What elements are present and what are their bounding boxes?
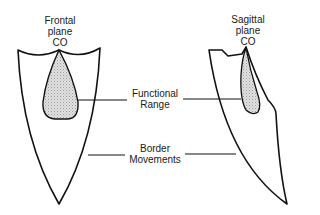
sagittal-title-line3: CO: [225, 36, 271, 47]
functional-line2: Range: [127, 99, 183, 110]
frontal-functional-range: [43, 50, 78, 119]
border-line1: Border: [125, 143, 185, 154]
border-line2: Movements: [125, 154, 185, 165]
frontal-plane-label: Frontal plane CO: [38, 15, 82, 48]
functional-line1: Functional: [127, 88, 183, 99]
frontal-title-line3: CO: [38, 37, 82, 48]
frontal-title-line2: plane: [38, 26, 82, 37]
frontal-title-line1: Frontal: [38, 15, 82, 26]
border-movements-label: Border Movements: [125, 143, 185, 165]
sagittal-plane-label: Sagittal plane CO: [225, 14, 271, 47]
sagittal-title-line2: plane: [225, 25, 271, 36]
sagittal-title-line1: Sagittal: [225, 14, 271, 25]
functional-range-label: Functional Range: [127, 88, 183, 110]
